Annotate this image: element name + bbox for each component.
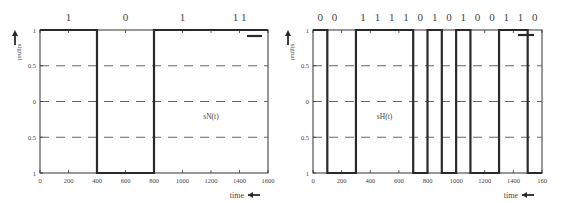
x-tick-label: 600	[121, 177, 131, 184]
y-axis-label: signal	[16, 44, 24, 61]
x-tick-label: 1400	[233, 177, 246, 184]
x-axis-label: time	[230, 191, 245, 200]
x-tick-label: 800	[149, 177, 159, 184]
y-tick-label: 0.5	[301, 62, 309, 69]
bit-label: 0	[418, 11, 424, 23]
x-tick-label: 0	[311, 177, 314, 184]
bit-label: 1	[403, 11, 409, 23]
y-tick-label: 0.5	[301, 134, 309, 141]
bit-label: 1	[503, 11, 509, 23]
bit-label: 0	[317, 11, 323, 23]
x-tick-label: 1400	[507, 177, 520, 184]
x-axis-label: time	[504, 191, 519, 200]
y-tick-label: 0	[306, 98, 309, 105]
y-tick-label: 1	[306, 27, 309, 34]
bit-label: 1 1	[233, 11, 247, 23]
y-tick-label: 1	[33, 27, 36, 34]
bit-label: 1	[461, 11, 467, 23]
bit-label: 0	[475, 11, 481, 23]
y-tick-label: 0.5	[28, 62, 36, 69]
y-tick-label: 0.5	[28, 134, 36, 141]
x-tick-label: 1600	[262, 177, 275, 184]
bit-label: 0	[332, 11, 338, 23]
chart-canvas: 10.500.510200400600800100012001400160010…	[0, 0, 563, 203]
x-tick-label: 1200	[478, 177, 491, 184]
x-tick-label: 1000	[176, 177, 189, 184]
x-tick-label: 1200	[205, 177, 218, 184]
bit-label: 1	[389, 11, 395, 23]
y-tick-label: 0	[33, 98, 36, 105]
x-tick-label: 200	[64, 177, 74, 184]
bit-label: 0	[489, 11, 495, 23]
chart-panel-1: 10.500.510200400600800100012001400160010…	[12, 11, 275, 200]
x-tick-label: 1000	[450, 177, 463, 184]
bit-label: 0	[123, 11, 129, 23]
bit-label: 1	[66, 11, 72, 23]
x-tick-label: 0	[38, 177, 41, 184]
y-tick-label: 1	[33, 170, 36, 177]
x-tick-label: 800	[423, 177, 433, 184]
bit-label: 1	[432, 11, 438, 23]
bit-label: 1	[375, 11, 381, 23]
signal-name-label: sN(t)	[203, 112, 219, 121]
bit-label: 1	[360, 11, 366, 23]
y-tick-label: 1	[306, 170, 309, 177]
signal-name-label: sH(t)	[377, 112, 393, 121]
bit-label: 0	[446, 11, 452, 23]
bit-label: 0	[532, 11, 538, 23]
x-tick-label: 400	[92, 177, 102, 184]
x-tick-label: 400	[365, 177, 375, 184]
y-axis-label: signal	[289, 44, 297, 61]
bit-label: 1	[180, 11, 186, 23]
x-tick-label: 600	[394, 177, 404, 184]
chart-panel-2: 10.500.510200400600800100012001400160001…	[285, 11, 547, 200]
x-tick-label: 160	[537, 177, 547, 184]
bit-label: 1	[518, 11, 524, 23]
x-tick-label: 200	[337, 177, 347, 184]
